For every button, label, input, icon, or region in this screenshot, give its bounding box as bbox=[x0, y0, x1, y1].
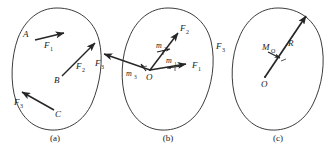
svg-text:O: O bbox=[271, 48, 276, 54]
svg-text:1: 1 bbox=[174, 61, 177, 67]
point-label-b: B bbox=[54, 75, 60, 85]
svg-text:1: 1 bbox=[50, 46, 53, 52]
svg-text:F: F bbox=[75, 61, 82, 71]
svg-text:m: m bbox=[126, 69, 132, 78]
svg-text:3: 3 bbox=[101, 64, 104, 70]
statics-force-reduction-figure: A F 1 B F 2 C F 3 O F bbox=[0, 0, 332, 152]
svg-text:2: 2 bbox=[82, 67, 85, 73]
caption-panel-b: (b) bbox=[148, 133, 188, 143]
svg-text:F: F bbox=[191, 60, 198, 70]
svg-text:M: M bbox=[261, 42, 270, 52]
svg-text:F: F bbox=[94, 58, 101, 68]
svg-text:F: F bbox=[43, 40, 50, 50]
caption-panel-a: (a) bbox=[35, 133, 75, 143]
svg-text:m: m bbox=[156, 41, 162, 50]
svg-text:m: m bbox=[166, 56, 172, 65]
point-label-c: C bbox=[55, 109, 62, 119]
svg-text:2: 2 bbox=[164, 46, 167, 52]
svg-text:2: 2 bbox=[186, 29, 189, 35]
svg-text:1: 1 bbox=[198, 66, 201, 72]
point-label-a: A bbox=[22, 29, 29, 39]
figure-canvas: A F 1 B F 2 C F 3 O F bbox=[0, 0, 332, 152]
svg-text:3: 3 bbox=[20, 103, 23, 109]
force-label-f3-c: F bbox=[215, 41, 222, 51]
origin-label-b: O bbox=[146, 72, 153, 82]
force-subscript-f3-c: 3 bbox=[222, 47, 225, 53]
resultant-label-r: R bbox=[287, 38, 294, 48]
svg-text:F: F bbox=[179, 23, 186, 33]
origin-label-c: O bbox=[261, 79, 268, 89]
svg-text:F: F bbox=[13, 97, 20, 107]
svg-text:3: 3 bbox=[134, 74, 137, 80]
caption-panel-c: (c) bbox=[258, 133, 298, 143]
